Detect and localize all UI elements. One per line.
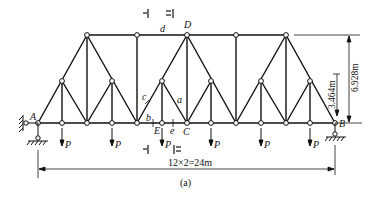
load-arrow-icon [160, 128, 164, 146]
load-label: P [312, 139, 319, 150]
member-label-d: d [160, 23, 166, 34]
node-label-d: D [183, 19, 192, 30]
node-label-b: B [339, 118, 345, 129]
figure-caption: (a) [180, 177, 191, 189]
load-arrow-icon [110, 128, 114, 146]
total-height-label: 6.928m [350, 63, 360, 92]
load-label: P [114, 139, 121, 150]
load-arrow-icon [60, 128, 64, 146]
member-label-b: b [146, 112, 151, 123]
mid-height-label: 3.464m [327, 80, 337, 109]
load-arrow-icon [308, 128, 312, 146]
load-label: P [164, 139, 171, 150]
node-label-e: E [153, 125, 160, 136]
load-label: P [64, 139, 71, 150]
truss-diagram: P P P P P P A B D C E a b c d e [0, 0, 369, 199]
node-label-a: A [29, 111, 37, 122]
member-label-a: a [177, 94, 182, 105]
truss-members [38, 35, 335, 123]
span-label: 12×2=24m [168, 157, 212, 168]
member-label-e: e [170, 125, 175, 136]
section-marker-top [143, 9, 173, 18]
load-label: P [263, 139, 270, 150]
member-label-c: c [142, 91, 147, 102]
load-label: P [213, 139, 220, 150]
load-arrow-icon [209, 128, 213, 146]
node-label-c: C [183, 126, 190, 137]
load-arrow-icon [259, 128, 263, 146]
